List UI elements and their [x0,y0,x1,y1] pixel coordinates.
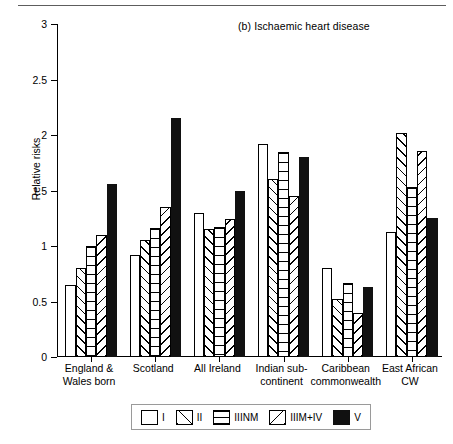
bar-i [130,255,140,357]
bar-i [258,144,268,357]
bar-iiinm [343,283,353,357]
bar-iiinm [407,187,417,357]
bar-iiim-iv [289,196,299,357]
bar-group [386,24,438,357]
y-tick-label: 2.5 [32,74,47,86]
legend-swatch-icon [213,410,230,425]
figure-panel: (b) Ischaemic heart disease Relative ris… [0,0,453,444]
bar-i [65,285,75,357]
y-tick: 0.5 [51,302,57,303]
bar-iiinm [278,152,288,357]
bar-ii [140,240,150,357]
bar-ii [76,268,86,357]
bar-group [194,24,246,357]
legend-swatch-icon [141,410,158,425]
bar-ii [332,299,342,357]
y-tick: 1.5 [51,191,57,192]
plot-area: 00.511.522.53 [57,24,442,357]
bar-iiim-iv [353,313,363,357]
legend-item-ii[interactable]: II [176,410,203,425]
y-tick-label: 2 [41,129,47,141]
y-tick: 2.5 [51,80,57,81]
y-tick: 1 [51,246,57,247]
bar-i [386,232,396,357]
y-tick: 3 [51,24,57,25]
bar-iiim-iv [417,151,427,357]
bar-v [171,118,181,357]
bar-v [235,191,245,358]
legend-label: II [197,412,203,423]
bar-v [427,218,437,357]
legend-item-iiinm[interactable]: IIINM [213,410,258,425]
legend-item-i[interactable]: I [141,410,165,425]
y-axis-label: Relative risks [30,109,42,229]
bar-i [194,213,204,357]
y-tick-label: 1.5 [32,185,47,197]
bar-i [322,268,332,357]
bar-iiinm [86,246,96,357]
bar-ii [268,179,278,357]
bar-iiinm [214,227,224,357]
x-tick-label: East African CW [372,362,448,387]
bar-v [299,157,309,357]
y-axis-line [57,24,58,357]
y-tick-label: 0 [41,351,47,363]
legend-item-iiim-iv[interactable]: IIIM+IV [269,410,322,425]
bar-ii [396,133,406,357]
bar-ii [204,229,214,357]
y-tick-label: 3 [41,18,47,30]
bar-v [363,287,373,357]
y-tick: 0 [51,357,57,358]
x-axis-labels: England & Wales bornScotlandAll IrelandI… [57,362,442,392]
legend-swatch-icon [269,410,286,425]
legend-label: I [162,412,165,423]
legend-item-v[interactable]: V [333,410,361,425]
bar-iiim-iv [160,207,170,357]
bar-group [258,24,310,357]
y-tick: 2 [51,135,57,136]
y-tick-label: 1 [41,240,47,252]
legend-label: V [354,412,361,423]
bar-iiinm [150,228,160,357]
legend-swatch-icon [333,410,350,425]
legend-label: IIINM [234,412,258,423]
header-rule [18,5,446,6]
bar-group [65,24,117,357]
y-tick-label: 0.5 [32,296,47,308]
bar-group [130,24,182,357]
bar-iiim-iv [96,235,106,357]
chart-legend: IIIIIINMIIIM+IVV [131,404,371,430]
legend-swatch-icon [176,410,193,425]
legend-label: IIIM+IV [290,412,322,423]
bar-group [322,24,374,357]
bar-v [107,184,117,357]
bar-iiim-iv [225,219,235,357]
